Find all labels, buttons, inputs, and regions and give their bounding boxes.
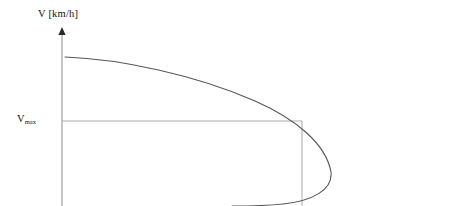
vmax-base-text: V	[17, 113, 25, 124]
chart-figure: V [km/h] Vmax	[0, 0, 464, 206]
y-axis-tick-label-vmax: Vmax	[17, 113, 36, 125]
y-axis-title: V [km/h]	[38, 8, 78, 19]
vmax-subscript-text: max	[25, 118, 36, 125]
plot-canvas	[0, 0, 464, 206]
velocity-envelope-curve	[65, 57, 331, 206]
helper-lines-group	[62, 121, 302, 206]
series-group	[65, 57, 331, 206]
y-axis-arrow-icon	[58, 27, 65, 35]
axes-group	[58, 27, 65, 206]
